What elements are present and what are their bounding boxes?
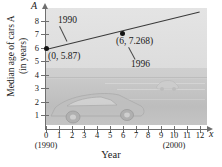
car-illustration bbox=[45, 68, 207, 125]
y-axis-arrow bbox=[42, 3, 48, 9]
y-axis-title-units: (in years) bbox=[18, 38, 28, 74]
x-tick-label-3: 3 bbox=[77, 131, 91, 140]
y-axis-title-text: Median age of cars A bbox=[6, 15, 16, 96]
y-tick-1 bbox=[41, 115, 49, 116]
y-tick-3 bbox=[41, 88, 49, 89]
x-axis-title: Year bbox=[0, 149, 222, 160]
background-photo-car-on-road bbox=[45, 68, 207, 125]
y-axis-title: Median age of cars A (in years) bbox=[5, 0, 29, 121]
graph-figure: A x 8 7 6 5 4 3 2 1 0 1 2 3 4 5 6 7 8 9 … bbox=[0, 0, 222, 167]
x-tick-label-5: 5 bbox=[103, 131, 117, 140]
x-tick-label-8: 8 bbox=[141, 131, 155, 140]
y-tick-5 bbox=[41, 61, 49, 62]
x-tick-label-11: 11 bbox=[180, 131, 194, 140]
y-tick-7 bbox=[41, 34, 49, 35]
y-tick-2 bbox=[41, 102, 49, 103]
annotation-1996: 1996 bbox=[131, 59, 150, 69]
data-label-1990: (0, 5.87) bbox=[48, 51, 80, 61]
x-tick-label-9: 9 bbox=[154, 131, 168, 140]
x-tick-label-1: 1 bbox=[52, 131, 66, 140]
y-tick-4 bbox=[41, 75, 49, 76]
y-tick-8 bbox=[41, 21, 49, 22]
y-axis-variable-name: A bbox=[31, 0, 37, 11]
y-axis-line bbox=[45, 8, 46, 129]
x-tick-label-0: 0 bbox=[39, 131, 53, 140]
x-axis-variable-name: x bbox=[209, 128, 213, 139]
annotation-1990: 1990 bbox=[58, 15, 77, 25]
x-tick-label-10: 10 bbox=[167, 131, 181, 140]
x-tick-label-12: 12 bbox=[193, 131, 207, 140]
data-point-1996 bbox=[120, 31, 125, 36]
x-tick-label-4: 4 bbox=[90, 131, 104, 140]
x-tick-label-6: 6 bbox=[116, 131, 130, 140]
data-label-1996: (6, 7.268) bbox=[116, 36, 153, 46]
